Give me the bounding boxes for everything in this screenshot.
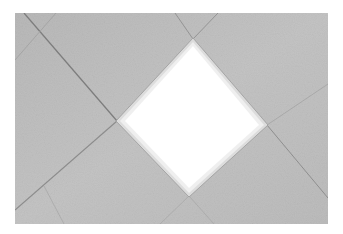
ceiling-photo [0,0,343,234]
